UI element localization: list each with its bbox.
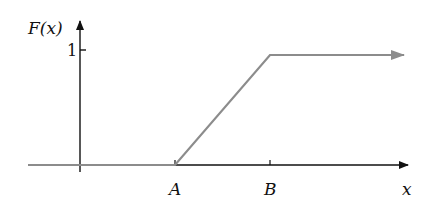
x-tick-label-a: A xyxy=(167,179,181,199)
x-axis-label: x xyxy=(402,179,412,199)
cdf-curve xyxy=(28,55,404,165)
x-tick-label-b: B xyxy=(263,179,277,199)
y-tick-label-1: 1 xyxy=(67,41,77,60)
cdf-diagram: F(x) 1 A B x xyxy=(0,0,436,211)
y-axis-label: F(x) xyxy=(27,18,63,38)
